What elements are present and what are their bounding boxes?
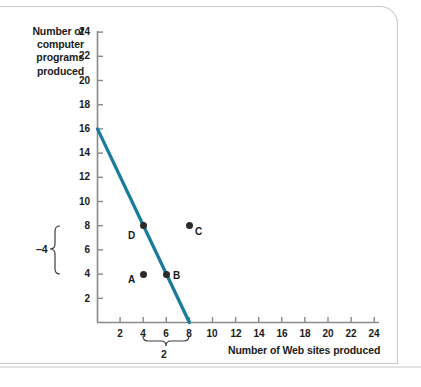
y-tick-label-22: 22	[74, 50, 90, 61]
x-tick-marks	[120, 317, 374, 323]
data-point-label-d: D	[128, 230, 135, 241]
data-point-label-a: A	[128, 274, 135, 285]
x-tick-label-24: 24	[365, 328, 383, 339]
y-tick-label-14: 14	[74, 147, 90, 158]
x-tick-label-8: 8	[180, 328, 198, 339]
rise-brace-label: –4	[36, 243, 48, 255]
x-tick-label-4: 4	[134, 328, 152, 339]
x-tick-label-12: 12	[227, 328, 245, 339]
run-brace-label: 2	[161, 348, 167, 360]
y-tick-label-24: 24	[74, 26, 90, 37]
data-point-a[interactable]	[140, 271, 147, 278]
x-tick-label-18: 18	[296, 328, 314, 339]
y-tick-label-2: 2	[74, 293, 90, 304]
ppf-scatter-chart: Number of computer programs produced Num…	[0, 0, 421, 387]
data-point-label-b: B	[173, 270, 180, 281]
y-tick-marks	[98, 32, 104, 298]
data-point-label-c: C	[195, 226, 202, 237]
x-tick-label-10: 10	[203, 328, 221, 339]
y-tick-label-16: 16	[74, 123, 90, 134]
y-tick-label-4: 4	[74, 268, 90, 279]
x-tick-label-14: 14	[250, 328, 268, 339]
y-tick-label-20: 20	[74, 75, 90, 86]
x-tick-label-2: 2	[111, 328, 129, 339]
x-tick-label-6: 6	[157, 328, 175, 339]
x-tick-label-16: 16	[273, 328, 291, 339]
data-point-b[interactable]	[163, 271, 170, 278]
rise-brace	[50, 226, 60, 274]
y-tick-label-12: 12	[74, 171, 90, 182]
x-tick-label-20: 20	[319, 328, 337, 339]
data-point-d[interactable]	[140, 222, 147, 229]
x-tick-label-22: 22	[342, 328, 360, 339]
y-tick-label-18: 18	[74, 99, 90, 110]
y-tick-label-6: 6	[74, 244, 90, 255]
y-tick-label-10: 10	[74, 196, 90, 207]
y-tick-label-8: 8	[74, 220, 90, 231]
